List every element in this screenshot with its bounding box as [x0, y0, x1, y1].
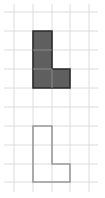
filled-l-shape [33, 31, 70, 88]
grid-diagram [0, 0, 105, 198]
